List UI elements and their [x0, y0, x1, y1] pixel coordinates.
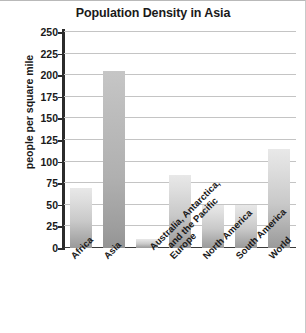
gridline-225 [64, 53, 296, 54]
gridline-200 [64, 74, 296, 75]
gridline-100 [64, 161, 296, 162]
gridline-250 [64, 31, 296, 32]
gridline-125 [64, 139, 296, 140]
chart-title: Population Density in Asia [0, 6, 306, 20]
y-axis-tick-marks [0, 32, 70, 248]
gridline-175 [64, 96, 296, 97]
gridline-150 [64, 117, 296, 118]
bar-world [268, 149, 290, 248]
population-density-bar-chart: Population Density in Asia people per sq… [0, 0, 306, 333]
bar-asia [103, 71, 125, 248]
